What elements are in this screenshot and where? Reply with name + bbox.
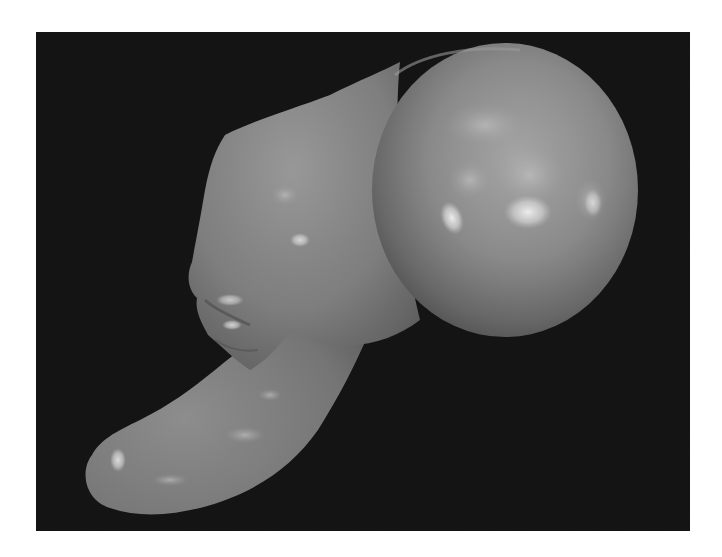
specimen-photo bbox=[0, 0, 722, 557]
film-grain bbox=[36, 32, 690, 531]
